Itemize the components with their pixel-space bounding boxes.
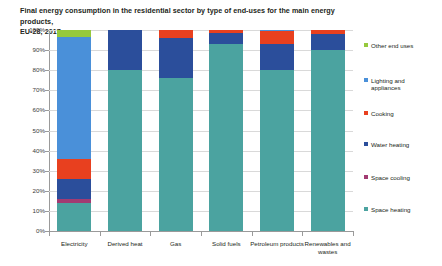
bar-segment[interactable] bbox=[260, 30, 294, 31]
gridline bbox=[49, 110, 353, 111]
x-axis-tick-mark bbox=[150, 232, 151, 236]
bar-segment[interactable] bbox=[260, 44, 294, 70]
legend-swatch-icon bbox=[364, 43, 368, 47]
bar-column[interactable] bbox=[209, 30, 243, 231]
plot-area bbox=[49, 30, 353, 231]
gridline bbox=[49, 131, 353, 132]
x-axis-category-label-line: wastes bbox=[297, 248, 359, 256]
bar-segment[interactable] bbox=[57, 203, 91, 231]
bar-segment[interactable] bbox=[108, 30, 142, 70]
legend-swatch-icon bbox=[364, 78, 368, 82]
gridline bbox=[49, 151, 353, 152]
legend-item[interactable]: Lighting andappliances bbox=[364, 77, 437, 92]
y-axis-tick-label: 20% bbox=[18, 188, 45, 194]
bar-segment[interactable] bbox=[159, 78, 193, 231]
legend-swatch-icon bbox=[364, 142, 368, 146]
bar-segment[interactable] bbox=[260, 31, 294, 44]
y-axis-tick-label: 90% bbox=[18, 47, 45, 53]
bar-segment[interactable] bbox=[57, 159, 91, 179]
bar-segment[interactable] bbox=[311, 30, 345, 34]
legend-item-label-line: Water heating bbox=[371, 141, 437, 148]
legend-item[interactable]: Other end uses bbox=[364, 42, 437, 49]
legend-swatch-icon bbox=[364, 111, 368, 115]
gridline bbox=[49, 211, 353, 212]
x-axis-tick-mark bbox=[302, 232, 303, 236]
bar-segment[interactable] bbox=[159, 38, 193, 78]
y-axis-tick-label: 40% bbox=[18, 148, 45, 154]
x-axis-tick-mark bbox=[49, 232, 50, 236]
legend-item-label: Other end uses bbox=[371, 42, 437, 49]
bar-column[interactable] bbox=[311, 30, 345, 231]
chart-legend: Other end usesLighting andappliancesCook… bbox=[364, 30, 442, 230]
legend-item[interactable]: Space heating bbox=[364, 206, 437, 213]
x-axis-tick-mark bbox=[100, 232, 101, 236]
bar-segment[interactable] bbox=[108, 70, 142, 231]
legend-swatch-icon bbox=[364, 175, 368, 179]
legend-item[interactable]: Space cooling bbox=[364, 174, 437, 181]
legend-item-label: Lighting andappliances bbox=[371, 77, 437, 92]
bar-segment[interactable] bbox=[57, 179, 91, 199]
y-axis-tick-label: 0% bbox=[18, 228, 45, 234]
gridline bbox=[49, 50, 353, 51]
legend-item-label-line: Lighting and bbox=[371, 77, 437, 84]
y-axis-tick-label: 100% bbox=[18, 27, 45, 33]
gridline bbox=[49, 191, 353, 192]
gridline bbox=[49, 70, 353, 71]
legend-item-label-line: Space cooling bbox=[371, 174, 437, 181]
legend-item-label: Water heating bbox=[371, 141, 437, 148]
y-axis-tick-label: 70% bbox=[18, 87, 45, 93]
legend-item[interactable]: Cooking bbox=[364, 110, 437, 117]
y-axis-tick-label: 10% bbox=[18, 208, 45, 214]
bar-segment[interactable] bbox=[57, 30, 91, 37]
legend-item-label: Space heating bbox=[371, 206, 437, 213]
legend-item-label-line: appliances bbox=[371, 84, 437, 91]
x-axis-category-label-line: Renewables and bbox=[297, 240, 359, 248]
x-axis-tick-mark bbox=[201, 232, 202, 236]
x-axis-tick-mark bbox=[353, 232, 354, 236]
y-axis-tick-label: 30% bbox=[18, 168, 45, 174]
x-axis-category-label: Renewables andwastes bbox=[297, 240, 359, 255]
y-axis-tick-label: 50% bbox=[18, 128, 45, 134]
gridline bbox=[49, 90, 353, 91]
bar-column[interactable] bbox=[260, 30, 294, 231]
bar-segment[interactable] bbox=[209, 30, 243, 33]
y-axis-tick-label: 80% bbox=[18, 67, 45, 73]
x-axis-tick-mark bbox=[252, 232, 253, 236]
bar-column[interactable] bbox=[108, 30, 142, 231]
legend-item-label-line: Other end uses bbox=[371, 42, 437, 49]
bar-segment[interactable] bbox=[57, 37, 91, 159]
chart-root: Final energy consumption in the resident… bbox=[0, 0, 442, 266]
bar-segment[interactable] bbox=[311, 34, 345, 50]
legend-item-label-line: Space heating bbox=[371, 206, 437, 213]
bar-column[interactable] bbox=[159, 30, 193, 231]
legend-item-label-line: Cooking bbox=[371, 110, 437, 117]
bar-segment[interactable] bbox=[57, 199, 91, 203]
bar-column[interactable] bbox=[57, 30, 91, 231]
y-axis-tick-label: 60% bbox=[18, 107, 45, 113]
legend-item-label: Cooking bbox=[371, 110, 437, 117]
gridline bbox=[49, 30, 353, 31]
legend-item-label: Space cooling bbox=[371, 174, 437, 181]
bar-segment[interactable] bbox=[159, 30, 193, 38]
bar-segment[interactable] bbox=[260, 70, 294, 231]
legend-swatch-icon bbox=[364, 207, 368, 211]
gridline bbox=[49, 171, 353, 172]
bar-segment[interactable] bbox=[209, 33, 243, 44]
bar-segment[interactable] bbox=[311, 50, 345, 231]
bar-segment[interactable] bbox=[209, 44, 243, 231]
legend-item[interactable]: Water heating bbox=[364, 141, 437, 148]
